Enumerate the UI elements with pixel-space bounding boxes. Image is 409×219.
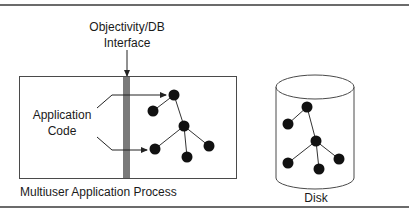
app-code-label-line1: Application	[33, 108, 92, 122]
app-code-label-line2: Code	[48, 124, 77, 138]
app-object-tree	[148, 90, 215, 163]
object-node	[179, 121, 190, 132]
object-node	[302, 102, 313, 113]
object-node	[169, 90, 180, 101]
object-node	[311, 136, 322, 147]
interface-bar	[123, 77, 130, 178]
object-node	[283, 158, 294, 169]
architecture-diagram: Objectivity/DB Interface Application Cod…	[0, 0, 409, 219]
object-node	[182, 152, 193, 163]
interface-label-line2: Interface	[104, 36, 151, 50]
object-node	[334, 154, 345, 165]
process-label: Multiuser Application Process	[20, 185, 177, 199]
object-node	[283, 119, 294, 130]
object-node	[204, 141, 215, 152]
disk-object-tree	[283, 102, 345, 175]
disk-label: Disk	[304, 191, 328, 205]
tree-edge	[155, 126, 184, 149]
object-node	[314, 164, 325, 175]
object-node	[150, 144, 161, 155]
app-code-arrow-bottom	[97, 137, 147, 150]
interface-label-line1: Objectivity/DB	[89, 20, 164, 34]
object-node	[148, 106, 159, 117]
app-code-arrow-top	[97, 95, 166, 108]
